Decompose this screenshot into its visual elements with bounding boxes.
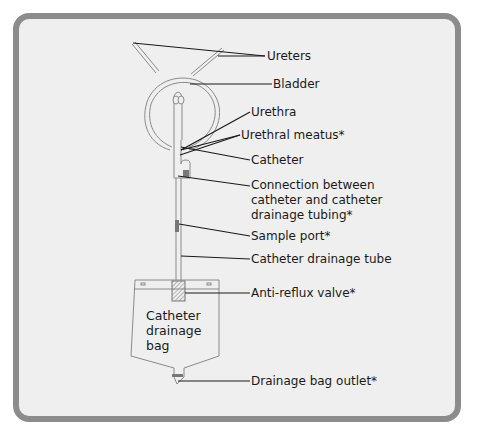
label-ureters: Ureters (267, 49, 311, 64)
label-anti-reflux-valve: Anti-reflux valve* (251, 286, 356, 301)
connection-fill (183, 170, 189, 177)
label-connection: Connection between catheter and catheter… (251, 178, 383, 223)
label-catheter: Catheter (251, 153, 303, 168)
label-catheter-drainage-tube: Catheter drainage tube (251, 252, 392, 267)
ureter-right (191, 48, 224, 76)
label-urethra: Urethra (251, 105, 296, 120)
label-urethral-meatus: Urethral meatus* (241, 128, 345, 143)
anti-reflux-valve (172, 281, 185, 301)
bag-outlet-clamp (172, 374, 183, 377)
label-sample-port: Sample port* (251, 229, 330, 244)
label-bladder: Bladder (273, 77, 319, 92)
catheter-illustration (0, 0, 486, 434)
catheter-tip (173, 92, 184, 140)
label-catheter-drainage-bag: Catheter drainage bag (146, 308, 201, 353)
sample-port (175, 220, 179, 232)
ureter-left (132, 42, 159, 73)
label-drainage-bag-outlet: Drainage bag outlet* (251, 374, 377, 389)
